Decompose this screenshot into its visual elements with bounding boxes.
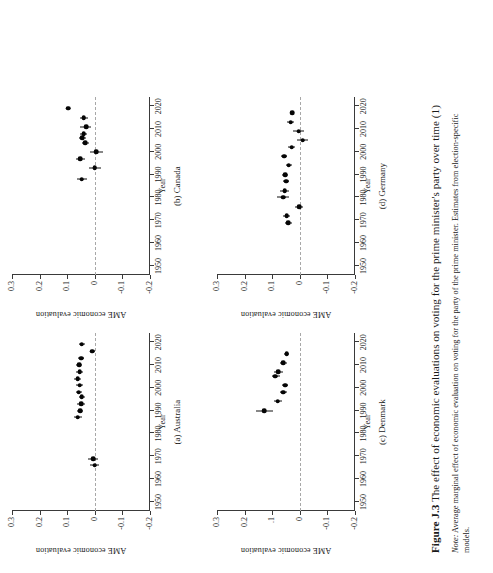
- y-axis-tick-label: 0.2: [241, 281, 249, 315]
- y-axis-tick: [272, 511, 273, 515]
- y-axis-tick-label: 0.2: [36, 281, 44, 315]
- note-text: Average marginal effect of economic eval…: [451, 114, 471, 553]
- estimate-marker: [296, 129, 301, 134]
- estimate-marker: [77, 383, 82, 388]
- estimate-marker: [273, 374, 278, 379]
- estimate-marker: [79, 401, 84, 406]
- panel-australia: AME economic evaluation0.30.20.10-0.1-0.…: [6, 320, 211, 555]
- plot-area: 0.30.20.10-0.1-0.21950196019701980199020…: [217, 97, 355, 275]
- estimate-marker: [80, 342, 85, 347]
- y-axis-tick-label: -0.2: [351, 517, 359, 551]
- figure-sheet: AME economic evaluation0.30.20.10-0.1-0.…: [0, 0, 493, 573]
- y-axis-tick-label: -0.2: [146, 517, 154, 551]
- y-axis-tick: [95, 511, 96, 515]
- y-axis-tick: [327, 511, 328, 515]
- estimate-marker: [90, 349, 95, 354]
- zero-reference-line: [95, 333, 96, 511]
- x-axis-title: Year: [158, 333, 167, 511]
- estimate-marker: [66, 106, 71, 111]
- panel-title: (b) Canada: [172, 97, 182, 275]
- caption-label: Figure J.3: [429, 505, 441, 553]
- y-axis-tick-label: 0: [296, 517, 304, 551]
- caption-note: Note: Average marginal effect of economi…: [450, 101, 473, 553]
- panel-title: (c) Denmark: [377, 333, 387, 511]
- estimate-marker: [300, 138, 305, 143]
- panel-denmark: AME economic evaluation0.30.2.10-0.1-0.2…: [211, 320, 416, 555]
- y-axis-tick-label: 0: [91, 517, 99, 551]
- panel-grid: AME economic evaluation0.30.20.10-0.1-0.…: [6, 85, 416, 555]
- estimate-marker: [288, 120, 293, 125]
- y-axis-tick: [300, 275, 301, 279]
- estimate-marker: [286, 220, 291, 225]
- plot-area: 0.30.20.10-0.1-0.21950196019701980199020…: [12, 333, 150, 511]
- y-axis-tick: [40, 275, 41, 279]
- estimate-marker: [282, 154, 287, 159]
- y-axis-tick: [217, 511, 218, 515]
- y-axis-tick: [40, 511, 41, 515]
- y-axis-tick-label: -0.2: [351, 281, 359, 315]
- y-axis-title: AME economic evaluation: [6, 543, 156, 557]
- estimate-marker: [81, 115, 86, 120]
- y-axis-tick: [122, 275, 123, 279]
- y-axis-tick-label: -0.1: [323, 517, 331, 551]
- y-axis-tick-label: 0.3: [213, 517, 221, 551]
- estimate-marker: [281, 195, 286, 200]
- estimate-marker: [75, 376, 80, 381]
- estimate-marker: [80, 395, 85, 400]
- estimate-marker: [289, 145, 294, 150]
- estimate-marker: [283, 172, 288, 177]
- y-axis-line: [12, 274, 150, 275]
- y-axis-title: AME economic evaluation: [6, 307, 156, 321]
- zero-reference-line: [95, 97, 96, 275]
- estimate-marker: [285, 213, 290, 218]
- x-axis-title: Year: [363, 97, 372, 275]
- estimate-marker: [78, 408, 83, 413]
- estimate-marker: [284, 179, 289, 184]
- plot-area: 0.30.2.10-0.1-0.219501960197019801990200…: [217, 333, 355, 511]
- estimate-marker: [77, 370, 82, 375]
- y-axis-line: [12, 510, 150, 511]
- y-axis-line: [217, 510, 355, 511]
- estimate-marker: [92, 165, 97, 170]
- y-axis-tick-label: 0.1: [268, 281, 276, 315]
- y-axis-tick: [150, 275, 151, 279]
- y-axis-tick-label: -0.1: [118, 281, 126, 315]
- panel-germany: AME economic evaluation0.30.20.10-0.1-0.…: [211, 84, 416, 319]
- y-axis-line: [217, 274, 355, 275]
- y-axis-tick: [150, 511, 151, 515]
- y-axis-tick: [327, 275, 328, 279]
- y-axis-tick-label: -0.2: [146, 281, 154, 315]
- y-axis-tick-label: 0: [91, 281, 99, 315]
- estimate-marker: [281, 390, 286, 395]
- y-axis-tick: [95, 275, 96, 279]
- y-axis-tick: [67, 511, 68, 515]
- y-axis-title: AME economic evaluation: [211, 543, 361, 557]
- estimate-marker: [80, 177, 85, 182]
- y-axis-tick: [355, 511, 356, 515]
- zero-reference-line: [300, 97, 301, 275]
- x-axis-line: [149, 333, 150, 511]
- y-axis-tick: [122, 511, 123, 515]
- estimate-marker: [80, 136, 85, 141]
- estimate-marker: [92, 463, 97, 468]
- estimate-marker: [281, 360, 286, 365]
- estimate-marker: [79, 356, 84, 361]
- y-axis-tick-label: 0.2: [241, 517, 249, 551]
- estimate-marker: [275, 399, 280, 404]
- y-axis-tick-label: 0.1: [63, 281, 71, 315]
- estimate-marker: [94, 149, 99, 154]
- estimate-marker: [76, 390, 81, 395]
- x-axis-line: [149, 97, 150, 275]
- estimate-marker: [84, 124, 89, 129]
- estimate-marker: [284, 351, 289, 356]
- plot-area: 0.30.20.10-0.1-0.21950196019701980199020…: [12, 97, 150, 275]
- note-label: Note:: [451, 535, 460, 553]
- estimate-marker: [282, 188, 287, 193]
- y-axis-tick-label: -0.1: [323, 281, 331, 315]
- y-axis-tick-label: 0.3: [8, 517, 16, 551]
- caption-text: The effect of economic evaluations on vo…: [429, 105, 441, 502]
- y-axis-tick-label: 0.2: [36, 517, 44, 551]
- estimate-marker: [262, 408, 267, 413]
- zero-reference-line: [300, 333, 301, 511]
- y-axis-tick-label: -0.1: [118, 517, 126, 551]
